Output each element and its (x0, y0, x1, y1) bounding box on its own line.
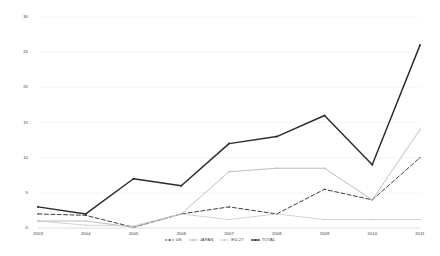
legend-swatch-icon (165, 238, 174, 242)
legend-swatch-icon (251, 238, 260, 242)
data-point (85, 224, 87, 226)
x-axis-tick-label: 2010 (359, 232, 385, 236)
legend-item-total[interactable]: TOTAL (251, 238, 276, 242)
data-point (133, 225, 135, 227)
line-chart: 051015202530 200320042005200620072008200… (0, 0, 440, 256)
legend-item-us[interactable]: US (165, 238, 182, 242)
x-axis-tick-label: 2011 (407, 232, 433, 236)
data-point (276, 136, 278, 138)
data-point (324, 219, 326, 221)
data-point (228, 219, 230, 221)
legend-item-label: US (176, 238, 182, 242)
legend-swatch-icon (189, 238, 198, 242)
data-point (37, 206, 39, 208)
data-point-markers (37, 44, 421, 228)
y-axis-tick-label: 10 (12, 156, 28, 160)
data-point (228, 206, 230, 208)
data-point (324, 167, 326, 169)
legend-item-label: JAPAN (200, 238, 214, 242)
data-point (324, 114, 326, 116)
data-point (228, 143, 230, 145)
data-point (419, 129, 421, 131)
data-point (133, 178, 135, 180)
legend-item-japan[interactable]: JAPAN (189, 238, 214, 242)
chart-legend: USJAPANEU-27TOTAL (0, 238, 440, 242)
legend-item-label: TOTAL (262, 238, 276, 242)
x-axis-tick-label: 2004 (73, 232, 99, 236)
legend-item-eu-27[interactable]: EU-27 (220, 238, 243, 242)
x-axis-tick-label: 2006 (168, 232, 194, 236)
y-axis-tick-label: 25 (12, 50, 28, 54)
y-axis-tick-label: 30 (12, 15, 28, 19)
gridlines (38, 17, 420, 228)
legend-item-label: EU-27 (231, 238, 243, 242)
data-point (372, 219, 374, 221)
y-axis-tick-label: 15 (12, 120, 28, 124)
y-axis-tick-label: 20 (12, 85, 28, 89)
data-point (276, 167, 278, 169)
chart-plot-area (0, 0, 440, 256)
data-point (133, 227, 135, 229)
data-point (180, 185, 182, 187)
legend-swatch-icon (220, 238, 229, 242)
data-point (37, 213, 39, 215)
x-axis-tick-label: 2007 (216, 232, 242, 236)
data-point (419, 44, 421, 46)
data-point (276, 213, 278, 215)
data-point (324, 189, 326, 191)
data-point (228, 171, 230, 173)
y-axis-tick-label: 0 (12, 226, 28, 230)
data-point (37, 220, 39, 222)
x-axis-tick-label: 2008 (264, 232, 290, 236)
data-point (419, 219, 421, 221)
data-point (419, 157, 421, 159)
x-axis-tick-label: 2009 (312, 232, 338, 236)
series-line-total (38, 45, 420, 214)
data-point (372, 199, 374, 201)
y-axis-tick-label: 5 (12, 191, 28, 195)
series-line-us (38, 158, 420, 228)
x-axis-tick-label: 2005 (121, 232, 147, 236)
data-point (181, 213, 183, 215)
data-point (371, 164, 373, 166)
data-series-group (38, 45, 420, 227)
x-axis-tick-label: 2003 (25, 232, 51, 236)
data-point (85, 220, 87, 222)
data-point (85, 213, 87, 215)
